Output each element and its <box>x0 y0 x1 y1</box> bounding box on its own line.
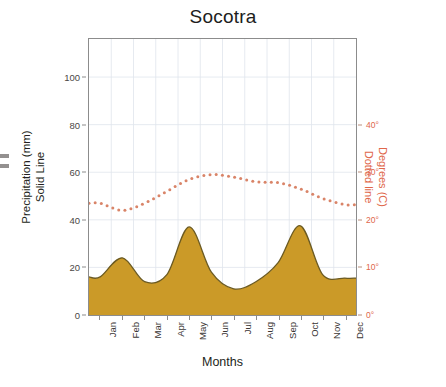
plot-area <box>88 38 357 316</box>
x-axis-tick-mark <box>122 316 123 320</box>
left-axis-tick-mark <box>82 124 86 125</box>
climate-chart-figure: Socotra Precipitation (mm) Solid Line 02… <box>0 0 446 387</box>
left-axis-title-line2: Solid Line <box>33 152 47 203</box>
right-axis-title: Degrees (C) Dotted line <box>358 38 392 316</box>
x-axis-tick-label-sep: Sep <box>287 322 298 339</box>
left-axis-tick-label: 80 <box>69 119 80 130</box>
left-axis-ticks: 020406080100 <box>48 38 86 316</box>
left-axis-title: Precipitation (mm) Solid Line <box>16 38 50 316</box>
x-axis-tick-mark <box>323 316 324 320</box>
x-axis-tick-label-oct: Oct <box>309 322 320 337</box>
x-axis-tick-mark <box>99 316 100 320</box>
right-axis-title-line1: Degrees (C) <box>375 147 389 207</box>
x-axis-tick-mark <box>167 316 168 320</box>
x-axis-tick-mark <box>144 316 145 320</box>
chart-title: Socotra <box>88 6 358 28</box>
right-axis-title-line2: Dotted line <box>361 151 375 204</box>
x-axis-tick-mark <box>279 316 280 320</box>
x-axis-tick-mark <box>301 316 302 320</box>
x-axis-tick-label-mar: Mar <box>152 322 163 338</box>
x-axis-tick-mark <box>256 316 257 320</box>
x-axis-tick-mark <box>346 316 347 320</box>
x-axis-tick-label-jul: Jul <box>242 322 253 334</box>
x-axis-tick-label-apr: Apr <box>175 322 186 337</box>
x-axis-title: Months <box>88 355 357 369</box>
x-axis-tick-mark <box>211 316 212 320</box>
x-axis-tick-label-dec: Dec <box>354 322 365 339</box>
x-axis-tick-mark <box>234 316 235 320</box>
x-axis-tick-label-nov: Nov <box>331 322 342 339</box>
x-axis-tick-label-feb: Feb <box>130 322 141 338</box>
left-axis-tick-mark <box>82 219 86 220</box>
left-axis-tick-label: 100 <box>64 72 80 83</box>
x-axis-ticks: JanFebMarAprMayJunJulAugSepOctNovDec <box>88 316 357 356</box>
scan-artifact <box>0 154 9 158</box>
x-axis-tick-mark <box>189 316 190 320</box>
left-axis-tick-label: 20 <box>69 262 80 273</box>
x-axis-tick-label-jun: Jun <box>219 322 230 337</box>
left-axis-tick-label: 40 <box>69 214 80 225</box>
left-axis-tick-mark <box>82 267 86 268</box>
x-axis-tick-label-aug: Aug <box>264 322 275 339</box>
left-axis-tick-mark <box>82 77 86 78</box>
left-axis-tick-label: 60 <box>69 167 80 178</box>
x-axis-tick-label-may: May <box>197 322 208 340</box>
plot-svg <box>89 39 356 315</box>
left-axis-tick-label: 0 <box>75 310 80 321</box>
left-axis-title-line1: Precipitation (mm) <box>19 130 33 223</box>
left-axis-tick-mark <box>82 315 86 316</box>
left-axis-tick-mark <box>82 172 86 173</box>
x-axis-tick-label-jan: Jan <box>107 322 118 337</box>
scan-artifact <box>0 164 9 168</box>
